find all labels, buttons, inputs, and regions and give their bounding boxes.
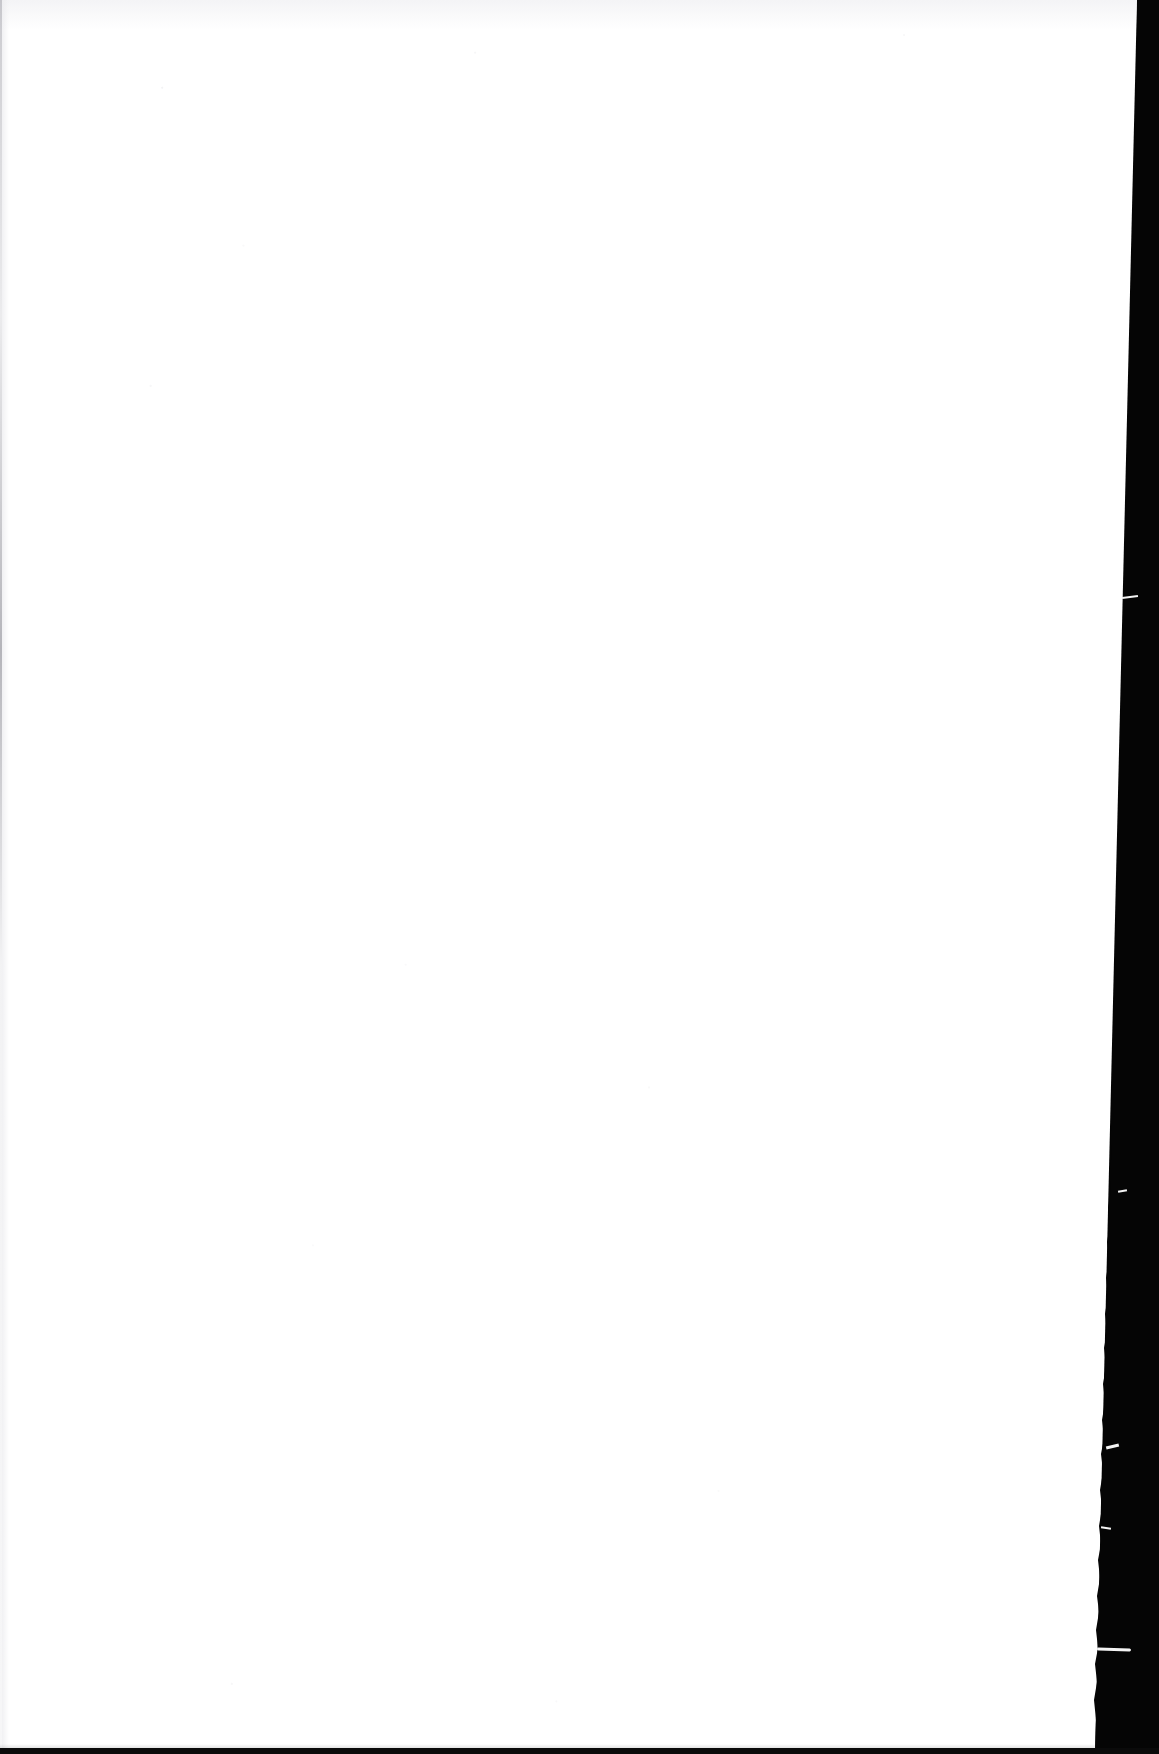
top-scan-cast bbox=[0, 0, 1159, 30]
left-gutter-line bbox=[0, 0, 2, 1754]
left-gutter-shadow bbox=[2, 0, 9, 1754]
bottom-edge-rule bbox=[0, 1748, 1159, 1754]
scan-grain-texture bbox=[0, 0, 1159, 1754]
scanned-page bbox=[0, 0, 1159, 1754]
paper-sheet bbox=[0, 0, 1159, 1754]
